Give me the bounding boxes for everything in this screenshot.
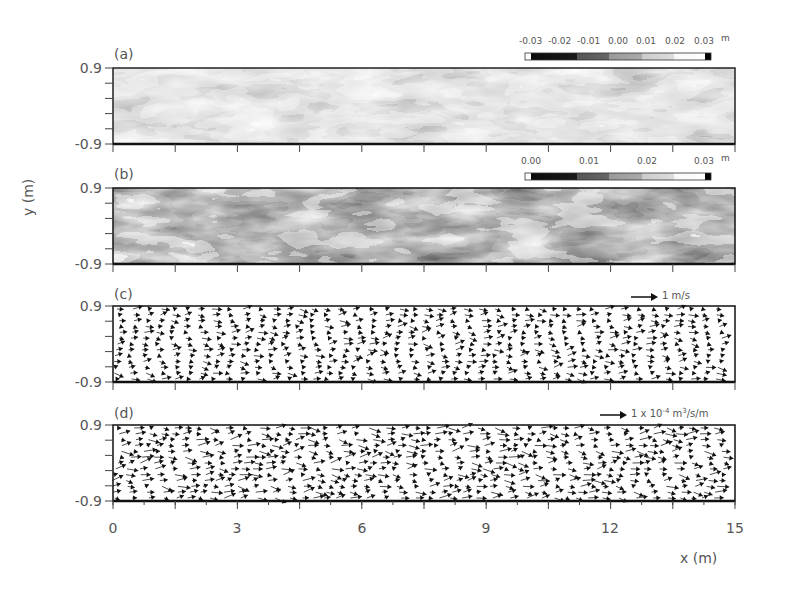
panel-b-heatmap [113,188,735,264]
panel-label-b: (b) [114,166,134,182]
x-axis-title: x (m) [680,550,717,566]
y-tick-label-d-bottom: -0.9 [58,493,102,509]
panel-a-heatmap [113,68,735,144]
colorbar-a-tick-6: 0.03 [694,36,714,46]
panel-a [113,68,735,144]
x-tick-label-12: 12 [595,520,625,536]
y-tick-label-b-bottom: -0.9 [58,256,102,272]
reference-label-c: 1 m/s [662,290,690,301]
panel-label-a: (a) [114,46,134,62]
panel-label-c: (c) [114,286,133,302]
y-tick-label-b-top: 0.9 [58,180,102,196]
reference-arrow-c [631,293,658,301]
colorbar-a-tick-1: -0.02 [548,36,571,46]
panel-b [113,188,735,264]
colorbar-b-tick-3: 0.03 [694,156,714,166]
panel-c [113,305,735,384]
y-ticks [105,68,113,501]
x-tick-label-6: 6 [347,520,377,536]
reference-label-d: 1 x 10-4 m3/s/m [631,407,708,419]
x-tick-label-9: 9 [471,520,501,536]
colorbar-b-tick-1: 0.01 [579,156,599,166]
colorbar-a-tick-3: 0.00 [608,36,628,46]
y-axis-title: y (m) [20,179,36,216]
y-tick-label-d-top: 0.9 [58,417,102,433]
colorbar-b-unit: m [721,153,730,163]
y-tick-label-c-top: 0.9 [58,298,102,314]
x-tick-label-3: 3 [222,520,252,536]
y-tick-label-a-bottom: -0.9 [58,136,102,152]
colorbar-b-tick-2: 0.02 [637,156,657,166]
panel-d [112,423,735,504]
reference-arrow-d [600,411,627,419]
colorbar-a [525,53,711,60]
colorbar-a-tick-2: -0.01 [577,36,600,46]
colorbar-b-tick-0: 0.00 [521,156,541,166]
x-tick-label-15: 15 [720,520,750,536]
y-tick-label-c-bottom: -0.9 [58,374,102,390]
panel-label-d: (d) [114,405,134,421]
colorbar-a-tick-4: 0.01 [636,36,656,46]
colorbar-a-unit: m [721,33,730,43]
colorbar-a-tick-0: -0.03 [519,36,542,46]
y-tick-label-a-top: 0.9 [58,60,102,76]
x-tick-label-0: 0 [98,520,128,536]
colorbar-b [525,173,711,180]
colorbar-a-tick-5: 0.02 [665,36,685,46]
